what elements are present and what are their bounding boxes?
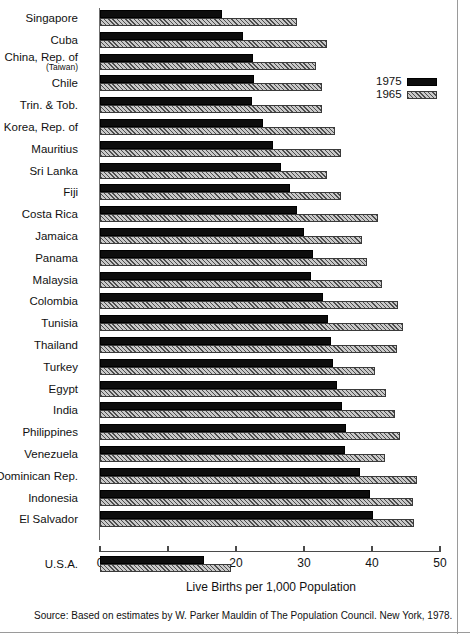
category-label-thailand: Thailand <box>0 339 78 351</box>
bar-1965-turkey <box>100 367 375 375</box>
bar-1975-turkey <box>100 359 333 367</box>
x-tick-20 <box>235 546 236 552</box>
bar-1965-chile <box>100 83 322 91</box>
category-label-text: Philippines <box>22 426 78 438</box>
category-label-text: China, Rep. of <box>4 51 78 63</box>
bar-1975-chile <box>100 75 254 83</box>
bar-1965-singapore <box>100 18 297 26</box>
source-note: Source: Based on estimates by W. Parker … <box>34 610 454 621</box>
bar-1975-singapore <box>100 10 222 18</box>
legend-item-1975: 1975 <box>376 76 437 87</box>
bar-1975-india <box>100 402 342 410</box>
category-sublabel-text: (Taiwan) <box>0 63 78 72</box>
category-label-text: Indonesia <box>28 492 78 504</box>
bar-1965-trin-tob <box>100 105 322 113</box>
x-tick-50 <box>439 546 440 552</box>
bar-1965-sri-lanka <box>100 171 327 179</box>
category-label-china-rep-of: China, Rep. of(Taiwan) <box>0 51 78 72</box>
category-label-text: Colombia <box>29 295 78 307</box>
category-label-text: U.S.A. <box>45 558 78 570</box>
category-label-text: Jamaica <box>35 230 78 242</box>
category-label-text: Malaysia <box>33 274 78 286</box>
category-label-text: Dominican Rep. <box>0 470 78 482</box>
category-label-u-s-a: U.S.A. <box>0 558 78 570</box>
x-axis-title: Live Births per 1,000 Population <box>100 580 442 594</box>
x-tick-label-40: 40 <box>352 556 392 570</box>
bar-1975-el-salvador <box>100 511 373 519</box>
bar-1975-mauritius <box>100 141 273 149</box>
category-label-text: Egypt <box>49 383 78 395</box>
bar-1965-malaysia <box>100 280 382 288</box>
bar-1975-venezuela <box>100 446 345 454</box>
bar-1965-indonesia <box>100 498 413 506</box>
bar-1975-fiji <box>100 184 290 192</box>
x-tick-0 <box>99 546 100 552</box>
category-label-panama: Panama <box>0 252 78 264</box>
category-label-text: Venezuela <box>24 448 78 460</box>
bar-1965-venezuela <box>100 454 385 462</box>
bar-1965-egypt <box>100 389 386 397</box>
bar-1975-panama <box>100 250 313 258</box>
category-label-sri-lanka: Sri Lanka <box>0 165 78 177</box>
bar-1965-el-salvador <box>100 519 414 527</box>
category-label-jamaica: Jamaica <box>0 230 78 242</box>
x-tick-label-30: 30 <box>284 556 324 570</box>
legend-swatch-1965 <box>407 91 437 99</box>
legend-label-1965: 1965 <box>376 89 406 100</box>
category-label-text: Tunisia <box>41 317 78 329</box>
category-label-cuba: Cuba <box>0 34 78 46</box>
x-tick-label-50: 50 <box>420 556 460 570</box>
bar-1975-dominican-rep <box>100 468 360 476</box>
x-tick-30 <box>303 546 304 552</box>
bar-1975-philippines <box>100 424 346 432</box>
category-label-text: Singapore <box>26 12 78 24</box>
category-label-indonesia: Indonesia <box>0 492 78 504</box>
bar-1975-trin-tob <box>100 97 252 105</box>
category-label-korea-rep-of: Korea, Rep. of <box>0 121 78 133</box>
legend-label-1975: 1975 <box>376 76 406 87</box>
bar-1975-korea-rep-of <box>100 119 263 127</box>
category-label-dominican-rep: Dominican Rep. <box>0 470 78 482</box>
bar-1975-colombia <box>100 293 323 301</box>
bar-1975-costa-rica <box>100 206 297 214</box>
bar-1965-colombia <box>100 301 398 309</box>
category-label-turkey: Turkey <box>0 361 78 373</box>
x-tick-10 <box>167 546 168 552</box>
category-label-el-salvador: El Salvador <box>0 513 78 525</box>
category-label-text: Turkey <box>43 361 78 373</box>
bar-1975-china-rep-of <box>100 54 253 62</box>
figure-right-border <box>457 0 458 634</box>
bar-1965-philippines <box>100 432 400 440</box>
category-label-text: Korea, Rep. of <box>4 121 78 133</box>
bar-1975-malaysia <box>100 272 311 280</box>
bar-1965-jamaica <box>100 236 362 244</box>
bar-1965-costa-rica <box>100 214 378 222</box>
category-label-philippines: Philippines <box>0 426 78 438</box>
bar-1965-china-rep-of <box>100 62 316 70</box>
category-label-text: Trin. & Tob. <box>20 99 78 111</box>
category-label-text: Sri Lanka <box>29 165 78 177</box>
bar-1965-thailand <box>100 345 397 353</box>
category-label-text: India <box>53 404 78 416</box>
bar-1965-u-s-a <box>100 564 231 572</box>
category-label-venezuela: Venezuela <box>0 448 78 460</box>
category-label-text: Panama <box>35 252 78 264</box>
chart-figure: 01020304050 SingaporeCubaChina, Rep. of(… <box>0 0 476 642</box>
category-label-mauritius: Mauritius <box>0 143 78 155</box>
bar-1975-indonesia <box>100 490 370 498</box>
bar-1965-tunisia <box>100 323 403 331</box>
category-label-costa-rica: Costa Rica <box>0 208 78 220</box>
x-axis-line <box>99 551 441 552</box>
bar-1975-thailand <box>100 337 331 345</box>
bar-1975-jamaica <box>100 228 304 236</box>
bar-1965-india <box>100 410 395 418</box>
category-label-text: Fiji <box>63 186 78 198</box>
category-label-india: India <box>0 404 78 416</box>
category-label-trin-tob: Trin. & Tob. <box>0 99 78 111</box>
bar-1965-dominican-rep <box>100 476 417 484</box>
bar-1975-u-s-a <box>100 556 204 564</box>
bar-1965-panama <box>100 258 367 266</box>
category-label-text: Chile <box>52 77 78 89</box>
category-label-text: Cuba <box>51 34 79 46</box>
bar-1965-korea-rep-of <box>100 127 335 135</box>
